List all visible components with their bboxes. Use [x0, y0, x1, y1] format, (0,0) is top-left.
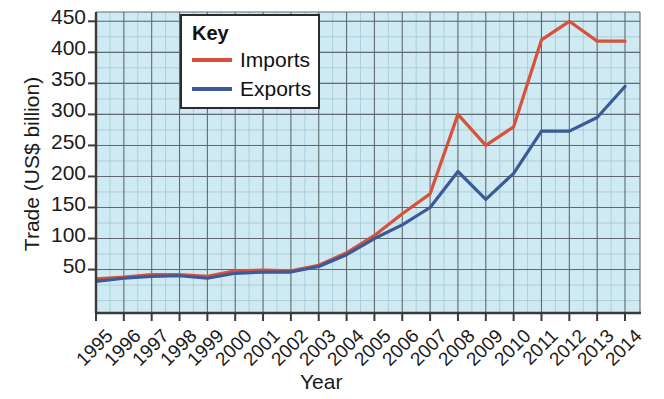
y-tick-label: 100 [51, 223, 86, 247]
y-tick-label: 200 [51, 161, 86, 185]
legend-item-imports: Imports [192, 46, 310, 74]
x-axis-tick-marks [96, 313, 625, 321]
y-tick-label: 450 [51, 5, 86, 29]
y-tick-label: 50 [63, 254, 86, 278]
legend-color-swatch-imports [192, 58, 232, 62]
y-tick-label: 350 [51, 67, 86, 91]
y-axis-title: Trade (US$ billion) [20, 14, 44, 314]
y-tick-label: 400 [51, 36, 86, 60]
chart-plot-area [0, 0, 664, 399]
plot-background [96, 12, 640, 313]
legend-color-swatch-exports [192, 87, 232, 91]
x-axis-title: Year [300, 370, 342, 394]
legend-title: Key [192, 21, 310, 45]
y-tick-label: 300 [51, 98, 86, 122]
trade-line-chart: 450 400 350 300 250 200 150 100 50 19951… [0, 0, 664, 399]
y-tick-label: 250 [51, 130, 86, 154]
legend-label-imports: Imports [240, 46, 310, 74]
y-tick-label: 150 [51, 192, 86, 216]
legend-label-exports: Exports [240, 75, 311, 103]
legend: Key Imports Exports [180, 14, 320, 109]
legend-item-exports: Exports [192, 75, 310, 103]
